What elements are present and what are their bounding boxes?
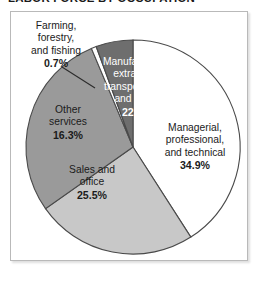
slice-label-line: Manufacturing, [103,56,171,67]
page-title: LABOR FORCE BY OCCUPATION [8,0,258,5]
chart-panel: Manufacturing, extraction, transportatio… [10,11,248,261]
slice-label-farming: Farming, forestry, and fishing 0.7% [15,20,97,70]
slice-value-managerial: 34.9% [146,159,244,171]
slice-label-line: transportation, [104,81,170,92]
slice-label-managerial: Managerial, professional, and technical … [146,122,244,172]
slice-label-sales: Sales and office 25.5% [51,164,133,201]
slice-label-line: services [49,116,87,127]
slice-label-line: professional, [166,134,224,145]
slice-label-line: and technical [165,147,226,158]
slice-label-other-services: Other services 16.3% [31,104,105,141]
pie-chart: Manufacturing, extraction, transportatio… [11,12,247,260]
chart-figure: LABOR FORCE BY OCCUPATION [0,0,264,281]
slice-value-sales: 25.5% [51,189,133,201]
slice-label-line: and crafts [114,93,159,104]
slice-label-line: Other [55,104,81,115]
slice-label-line: forestry, [38,32,74,43]
slice-label-line: office [80,176,104,187]
slice-label-line: Managerial, [168,122,222,133]
slice-label-line: Farming, [36,20,77,31]
slice-label-line: Sales and [69,164,115,175]
slice-label-line: and fishing [31,45,81,56]
slice-label-line: extraction, [113,68,161,79]
slice-value-other-services: 16.3% [31,129,105,141]
slice-value-farming: 0.7% [15,57,97,69]
